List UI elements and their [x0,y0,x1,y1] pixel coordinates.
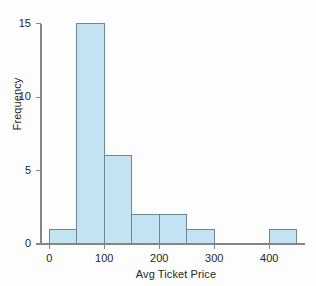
histogram-bar [132,215,160,244]
x-axis-tick-label: 200 [142,252,176,264]
y-axis-tick-label: 10 [7,90,31,102]
y-axis-tick-label: 0 [7,237,31,249]
x-axis-tick-label: 100 [87,252,121,264]
histogram-bar [49,229,77,244]
histogram-chart: Frequency Avg Ticket Price 0510150100200… [0,0,316,286]
histogram-bar [269,229,297,244]
histogram-bar [159,215,187,244]
x-axis-tick-label: 300 [197,252,231,264]
x-axis-title: Avg Ticket Price [0,268,316,280]
x-axis-title-text: Avg Ticket Price [100,268,216,280]
y-axis-tick-label: 15 [7,17,31,29]
x-axis-tick-label: 400 [252,252,286,264]
x-axis-tick-label: 0 [32,252,66,264]
histogram-bar [77,24,105,244]
histogram-bar [187,229,215,244]
y-axis-tick-label: 5 [7,164,31,176]
plot-area [0,0,316,286]
y-axis-title: Frequency [11,59,23,149]
histogram-bar [104,156,132,244]
